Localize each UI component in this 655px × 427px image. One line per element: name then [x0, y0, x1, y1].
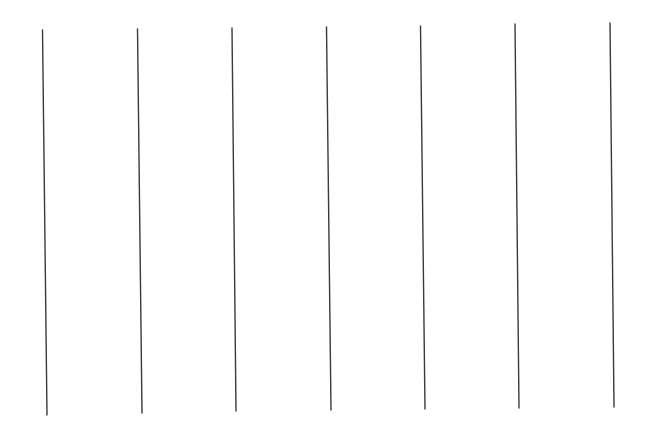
vertical-lines-group [43, 23, 615, 415]
vertical-line-3 [232, 28, 236, 411]
vertical-line-7 [610, 23, 614, 407]
vertical-lines-drawing [0, 0, 655, 427]
vertical-line-2 [138, 29, 143, 413]
vertical-line-1 [43, 30, 48, 415]
vertical-line-4 [327, 27, 332, 410]
vertical-line-5 [421, 26, 426, 409]
vertical-line-6 [515, 24, 519, 408]
line-drawing-canvas [0, 0, 655, 427]
